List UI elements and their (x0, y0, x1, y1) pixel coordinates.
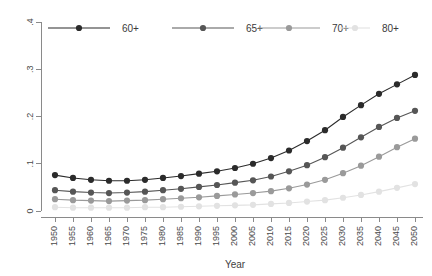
data-point (322, 127, 328, 133)
data-point (106, 205, 112, 211)
data-point (340, 195, 346, 201)
legend-marker (200, 25, 206, 31)
y-tick-label: .1 (25, 160, 35, 168)
x-tick-label: 2035 (355, 226, 365, 246)
x-tick-label: 1975 (139, 226, 149, 246)
data-point (268, 155, 274, 161)
x-tick-label: 2015 (283, 226, 293, 246)
line-chart: 60+65+70+80+ 0.1.2.3.4 19501955196019651… (0, 0, 432, 276)
data-point (178, 186, 184, 192)
x-tick-label: 1965 (103, 226, 113, 246)
data-point (142, 177, 148, 183)
y-tick-label: .3 (25, 65, 35, 73)
x-tick-label: 2040 (373, 226, 383, 246)
data-point (160, 204, 166, 210)
data-point (88, 189, 94, 195)
data-point (286, 185, 292, 191)
data-point (70, 189, 76, 195)
data-point (376, 124, 382, 130)
data-point (268, 173, 274, 179)
data-point (376, 154, 382, 160)
legend-label-60plus[interactable]: 60+ (122, 23, 139, 34)
data-point (214, 193, 220, 199)
data-point (70, 175, 76, 181)
data-point (52, 204, 58, 210)
data-point (160, 187, 166, 193)
x-tick-label: 1980 (157, 226, 167, 246)
data-point (304, 181, 310, 187)
y-axis: 0.1.2.3.4 (25, 18, 41, 213)
data-point (322, 154, 328, 160)
x-tick-label: 1985 (175, 226, 185, 246)
x-tick-label: 2020 (301, 226, 311, 246)
x-axis-title: Year (225, 259, 246, 270)
data-point (232, 202, 238, 208)
data-point (250, 202, 256, 208)
x-tick-label: 1950 (49, 226, 59, 246)
data-point (358, 192, 364, 198)
data-point (286, 168, 292, 174)
data-point (232, 180, 238, 186)
chart-container: 60+65+70+80+ 0.1.2.3.4 19501955196019651… (0, 0, 432, 276)
data-point (214, 182, 220, 188)
data-point (322, 177, 328, 183)
data-point (70, 197, 76, 203)
data-point (394, 144, 400, 150)
x-tick-label: 2045 (391, 226, 401, 246)
data-point (196, 194, 202, 200)
data-point (376, 91, 382, 97)
data-point (124, 198, 130, 204)
data-point (124, 178, 130, 184)
data-point (232, 191, 238, 197)
data-point (178, 173, 184, 179)
data-point (196, 171, 202, 177)
data-point (52, 172, 58, 178)
data-point (358, 134, 364, 140)
x-tick-label: 1955 (67, 226, 77, 246)
data-point (412, 72, 418, 78)
data-point (268, 201, 274, 207)
legend-label-80plus[interactable]: 80+ (382, 23, 399, 34)
legend-marker (286, 25, 292, 31)
data-point (250, 161, 256, 167)
data-point (250, 177, 256, 183)
legend-marker (76, 25, 82, 31)
data-point (160, 196, 166, 202)
data-point (394, 115, 400, 121)
x-axis: 1950195519601965197019751980198519901995… (41, 217, 423, 246)
data-point (178, 204, 184, 210)
legend-marker (352, 25, 358, 31)
data-point (286, 200, 292, 206)
data-point (214, 168, 220, 174)
data-point (106, 198, 112, 204)
data-point (340, 170, 346, 176)
data-point (214, 203, 220, 209)
data-point (394, 185, 400, 191)
data-point (142, 189, 148, 195)
data-point (196, 203, 202, 209)
data-point (124, 205, 130, 211)
y-tick-label: 0 (25, 208, 35, 213)
data-point (88, 205, 94, 211)
data-point (106, 178, 112, 184)
data-point (250, 190, 256, 196)
data-point (232, 165, 238, 171)
data-point (358, 102, 364, 108)
x-tick-label: 2005 (247, 226, 257, 246)
legend: 60+65+70+80+ (48, 23, 399, 34)
data-point (358, 163, 364, 169)
data-point (196, 184, 202, 190)
data-point (376, 189, 382, 195)
data-point (124, 189, 130, 195)
data-point (412, 181, 418, 187)
data-point (340, 114, 346, 120)
data-point (52, 196, 58, 202)
data-point (304, 162, 310, 168)
data-point (340, 145, 346, 151)
data-point (178, 195, 184, 201)
data-point (142, 197, 148, 203)
x-tick-label: 2010 (265, 226, 275, 246)
x-tick-label: 2030 (337, 226, 347, 246)
data-point (142, 204, 148, 210)
x-tick-label: 1960 (85, 226, 95, 246)
